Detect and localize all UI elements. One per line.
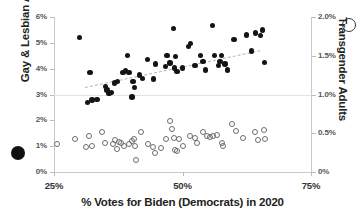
- data-point: [212, 53, 217, 58]
- data-point: [214, 132, 220, 138]
- data-point: [151, 76, 156, 81]
- left-tick-mark: [50, 120, 54, 121]
- data-point: [152, 150, 158, 156]
- left-tick-mark: [50, 43, 54, 44]
- data-point: [86, 133, 92, 139]
- data-point: [255, 137, 261, 143]
- data-point: [169, 126, 175, 132]
- data-point: [262, 60, 267, 65]
- data-point: [220, 143, 226, 149]
- data-point: [244, 32, 249, 37]
- data-point: [240, 135, 246, 141]
- x-axis-title: % Votes for Biden (Democrats) in 2020: [40, 196, 325, 208]
- data-point: [150, 144, 156, 150]
- data-point: [176, 136, 182, 142]
- x-tick-label: 50%: [163, 180, 203, 191]
- data-point: [94, 97, 99, 102]
- data-point: [163, 136, 169, 142]
- data-point: [262, 136, 268, 142]
- data-point: [225, 67, 230, 72]
- data-point: [231, 37, 236, 42]
- data-point: [131, 136, 137, 142]
- left-tick-label: 3%: [22, 90, 47, 99]
- right-tick-mark: [312, 56, 316, 57]
- data-point: [188, 41, 193, 46]
- data-point: [174, 148, 180, 154]
- left-tick-label: 1%: [22, 141, 47, 150]
- data-point: [222, 61, 227, 66]
- data-point: [54, 141, 60, 147]
- x-tick-mark: [311, 172, 312, 176]
- data-point: [102, 140, 108, 146]
- x-tick-label: 75%: [291, 180, 331, 191]
- data-point: [194, 140, 200, 146]
- x-tick-label: 25%: [34, 180, 74, 191]
- left-tick-label: 2%: [22, 115, 47, 124]
- data-point: [89, 143, 95, 149]
- data-point: [171, 26, 176, 31]
- data-point: [115, 79, 120, 84]
- data-point: [174, 69, 179, 74]
- right-tick-mark: [312, 95, 316, 96]
- left-tick-mark: [50, 69, 54, 70]
- data-point: [164, 53, 169, 58]
- gridline-horizontal: [54, 95, 311, 96]
- data-point: [198, 53, 203, 58]
- data-point: [114, 146, 120, 152]
- data-point: [180, 65, 185, 70]
- data-point: [260, 27, 265, 32]
- data-point: [249, 48, 254, 53]
- data-point: [126, 70, 131, 75]
- left-tick-mark: [50, 95, 54, 96]
- data-point: [77, 35, 82, 40]
- left-tick-label: 6%: [22, 12, 47, 21]
- data-point: [145, 57, 150, 62]
- right-tick-mark: [312, 172, 316, 173]
- left-tick-label: 4%: [22, 64, 47, 73]
- data-point: [125, 53, 130, 58]
- data-point: [133, 157, 139, 163]
- right-tick-label: 2.0%: [318, 12, 348, 21]
- data-point: [200, 59, 205, 64]
- right-tick-label: 0.5%: [318, 128, 348, 137]
- data-point: [233, 128, 239, 134]
- data-point: [130, 79, 135, 84]
- data-point: [138, 129, 144, 135]
- data-point: [72, 136, 78, 142]
- data-point: [192, 63, 197, 68]
- data-point: [87, 70, 92, 75]
- left-tick-mark: [50, 146, 54, 147]
- data-point: [203, 67, 208, 72]
- scatter-chart: Gay & Lesbian Adults Transgender Adults …: [0, 0, 364, 221]
- right-tick-mark: [312, 17, 316, 18]
- data-point: [158, 145, 164, 151]
- left-tick-mark: [50, 17, 54, 18]
- data-point: [167, 118, 173, 124]
- right-tick-label: 1.5%: [318, 51, 348, 60]
- x-tick-mark: [54, 172, 55, 176]
- data-point: [129, 94, 134, 99]
- left-tick-label: 0%: [22, 167, 47, 176]
- data-point: [252, 129, 258, 135]
- left-tick-label: 5%: [22, 38, 47, 47]
- data-point: [132, 85, 137, 90]
- right-tick-label: 1.0%: [318, 90, 348, 99]
- data-point: [99, 129, 105, 135]
- data-point: [229, 121, 235, 127]
- data-point: [258, 33, 263, 38]
- data-point: [173, 54, 178, 59]
- data-point: [132, 143, 138, 149]
- data-point: [140, 76, 145, 81]
- data-point: [153, 61, 158, 66]
- right-tick-mark: [312, 133, 316, 134]
- data-point: [180, 143, 186, 149]
- x-tick-mark: [183, 172, 184, 176]
- right-tick-label: 0%: [318, 167, 348, 176]
- data-point: [261, 127, 267, 133]
- plot-area: [54, 17, 311, 172]
- data-point: [210, 23, 215, 28]
